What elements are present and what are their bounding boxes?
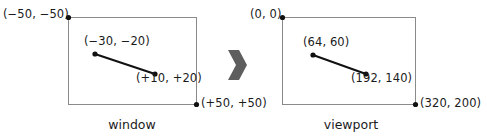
window-corner-point-bottom-right xyxy=(194,102,199,107)
viewport-segment-start-point xyxy=(310,52,315,57)
diagram-graphics xyxy=(0,0,487,139)
window-bottom-right-coord-label: (+50, +50) xyxy=(201,97,267,110)
window-top-left-coord-label: (−50, −50) xyxy=(3,8,69,21)
window-to-viewport-diagram: (−50, −50) (+50, +50) (−30, −20) (+10, +… xyxy=(0,0,487,139)
viewport-top-left-coord-label: (0, 0) xyxy=(250,8,282,21)
window-segment-start-point xyxy=(92,51,97,56)
viewport-caption: viewport xyxy=(311,118,391,132)
window-caption: window xyxy=(92,118,172,132)
window-box xyxy=(69,18,197,105)
viewport-corner-point-bottom-right xyxy=(413,102,418,107)
viewport-segment-end-coord-label: (192, 140) xyxy=(351,72,412,85)
window-segment-end-coord-label: (+10, +20) xyxy=(136,72,202,85)
viewport-segment-start-coord-label: (64, 60) xyxy=(303,36,349,49)
viewport-box xyxy=(283,18,416,105)
viewport-bottom-right-coord-label: (320, 200) xyxy=(420,97,481,110)
maps-to-arrow-icon xyxy=(228,50,247,80)
window-segment-start-coord-label: (−30, −20) xyxy=(84,35,150,48)
